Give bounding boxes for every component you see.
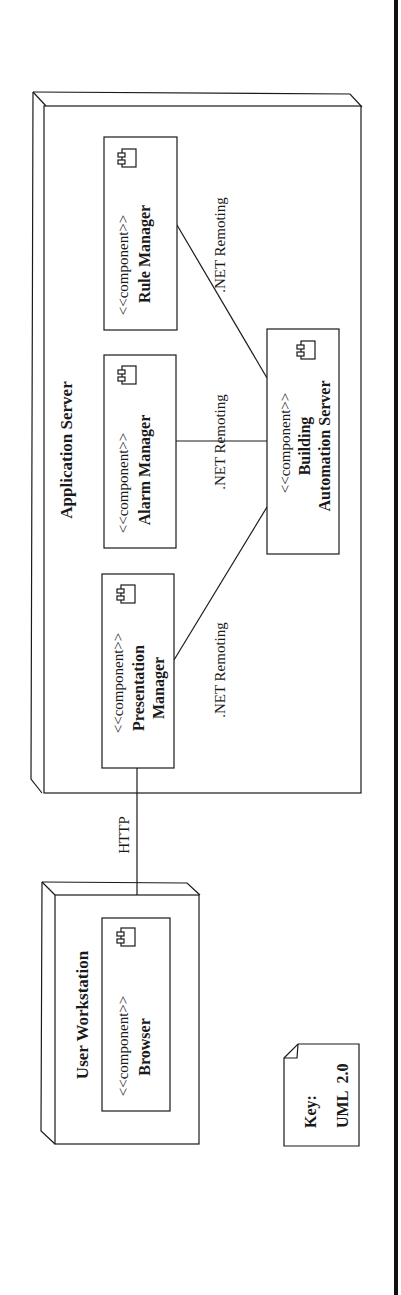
component-stereotype: <<component>> [277, 393, 293, 494]
node-corner-bevel [33, 92, 46, 106]
frame-border [394, 0, 398, 1295]
key-label: Key: [302, 1095, 320, 1128]
node-corner-bevel [42, 882, 55, 895]
node-left-bevel [31, 92, 42, 793]
connector-label-alarm-bas: .NET Remoting [212, 394, 228, 490]
component-stereotype: <<component>> [115, 996, 131, 1097]
connector-label-http: HTTP [116, 816, 132, 854]
component-name: Rule Manager [136, 205, 154, 303]
node-top-bevel [33, 92, 362, 107]
component-alarm-manager[interactable]: <<component>> Alarm Manager [104, 355, 176, 548]
key-value: UML 2.0 [334, 1064, 351, 1128]
component-stereotype: <<component>> [115, 433, 131, 534]
component-stereotype: <<component>> [110, 633, 126, 734]
deployment-diagram: Application Server .NET Remoting .NET Re… [0, 0, 401, 1295]
component-name-line1: Building [296, 417, 314, 476]
component-box [102, 918, 170, 1111]
component-name-line2: Manager [150, 657, 168, 719]
connector-label-rule-bas: .NET Remoting [212, 197, 228, 293]
component-presentation-manager[interactable]: <<component>> Presentation Manager [102, 574, 174, 768]
component-name: Alarm Manager [136, 415, 154, 526]
component-building-automation-server[interactable]: <<component>> Building Automation Server [267, 329, 339, 554]
node-left-bevel [41, 882, 55, 1144]
connector-label-presentation-bas: .NET Remoting [212, 622, 228, 718]
node-title: Application Server [57, 381, 76, 519]
component-name: Browser [136, 1018, 153, 1075]
component-rule-manager[interactable]: <<component>> Rule Manager [104, 137, 177, 330]
component-name-line2: Automation Server [316, 380, 333, 511]
node-top-bevel [42, 882, 200, 895]
node-title: User Workstation [73, 950, 92, 1079]
key-note: Key: UML 2.0 [284, 1044, 359, 1146]
component-stereotype: <<component>> [115, 215, 131, 316]
component-browser[interactable]: <<component>> Browser [102, 918, 170, 1111]
component-name-line1: Presentation [130, 645, 147, 731]
